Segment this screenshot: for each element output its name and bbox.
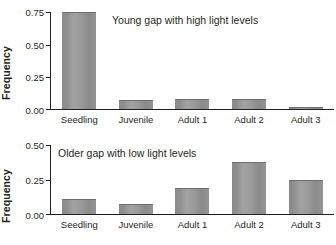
x-tick-label: Adult 2 — [221, 114, 278, 125]
plot-area-top: Young gap with high light levels — [50, 12, 334, 110]
bar-slot — [277, 145, 334, 214]
y-tick-label: 0.25 — [14, 175, 44, 186]
plot-area-bottom: Older gap with low light levels — [50, 145, 334, 215]
x-tick-label: Adult 3 — [277, 219, 334, 230]
bar — [119, 100, 153, 109]
x-axis-labels-top: Seedling Juvenile Adult 1 Adult 2 Adult … — [51, 114, 334, 125]
bar — [232, 162, 266, 214]
bar — [175, 188, 209, 214]
y-tick-label: 0.75 — [14, 7, 44, 18]
bar-slot — [51, 12, 108, 109]
y-tick-label: 0.25 — [14, 72, 44, 83]
bar-group-top — [51, 12, 334, 109]
bar-slot — [277, 12, 334, 109]
panel-title-bottom: Older gap with low light levels — [58, 147, 196, 159]
x-tick-label: Adult 3 — [277, 114, 334, 125]
chart-panel-top: Frequency 0.75 0.50 0.25 0.00 — [0, 0, 336, 131]
y-tick-mark — [46, 12, 50, 13]
bar-slot — [221, 145, 278, 214]
y-axis-label-bottom: Frequency — [0, 169, 12, 223]
x-tick-label: Juvenile — [108, 219, 165, 230]
y-tick-label: 0.00 — [14, 105, 44, 116]
bar — [175, 99, 209, 109]
panel-title-top: Young gap with high light levels — [112, 14, 258, 26]
y-tick-label: 0.50 — [14, 140, 44, 151]
bar — [289, 180, 323, 215]
y-axis-ticks-top: 0.75 0.50 0.25 0.00 — [14, 0, 44, 131]
y-tick-mark — [46, 109, 50, 110]
bar-slot — [108, 12, 165, 109]
y-tick-mark — [46, 180, 50, 181]
y-axis-label-top: Frequency — [0, 46, 12, 100]
bar — [62, 199, 96, 214]
x-axis-line — [50, 214, 334, 215]
x-tick-label: Juvenile — [108, 114, 165, 125]
x-axis-labels-bottom: Seedling Juvenile Adult 1 Adult 2 Adult … — [51, 219, 334, 230]
x-tick-label: Seedling — [51, 219, 108, 230]
x-tick-label: Adult 2 — [221, 219, 278, 230]
figure: Frequency 0.75 0.50 0.25 0.00 — [0, 0, 336, 245]
chart-panel-bottom: Frequency 0.50 0.25 0.00 — [0, 131, 336, 245]
y-tick-label: 0.00 — [14, 210, 44, 221]
x-axis-line — [50, 109, 334, 110]
y-tick-label: 0.50 — [14, 39, 44, 50]
y-tick-mark — [46, 45, 50, 46]
bar-slot — [164, 12, 221, 109]
y-tick-mark — [46, 77, 50, 78]
x-tick-label: Adult 1 — [164, 114, 221, 125]
x-tick-label: Adult 1 — [164, 219, 221, 230]
x-tick-label: Seedling — [51, 114, 108, 125]
bar — [119, 204, 153, 214]
y-tick-mark — [46, 214, 50, 215]
bar — [232, 99, 266, 109]
y-axis-ticks-bottom: 0.50 0.25 0.00 — [14, 131, 44, 245]
y-tick-mark — [46, 145, 50, 146]
bar — [62, 12, 96, 109]
bar — [289, 107, 323, 109]
bar-slot — [221, 12, 278, 109]
